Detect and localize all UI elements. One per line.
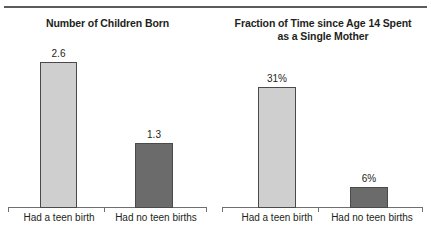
bar-value-had-a-teen-birth: 31% <box>256 73 298 84</box>
x-axis-tick-middle-left <box>104 208 105 212</box>
x-axis-tick-start-left <box>8 208 9 212</box>
bar-had-no-teen-births[interactable] <box>135 143 173 208</box>
bar-value-had-a-teen-birth: 2.6 <box>38 48 79 59</box>
x-tick-label-had-no-teen-births: Had no teen births <box>322 212 422 223</box>
bar-had-a-teen-birth[interactable] <box>258 87 296 208</box>
bar-value-had-no-teen-births: 1.3 <box>133 129 175 140</box>
x-axis-tick-end-left <box>206 208 207 212</box>
chart-panel-children-born: Number of Children Born 2.6 1.3 Had a te… <box>0 0 215 246</box>
plot-area-left: 2.6 1.3 Had a teen birth Had no teen bir… <box>0 0 215 246</box>
bar-had-a-teen-birth[interactable] <box>40 62 77 208</box>
bar-had-no-teen-births[interactable] <box>350 187 388 208</box>
figure-root: Number of Children Born 2.6 1.3 Had a te… <box>0 0 431 246</box>
x-axis-tick-start-right <box>222 208 223 212</box>
x-axis-line-right <box>222 207 423 208</box>
x-axis-tick-end-right <box>422 208 423 212</box>
x-tick-label-had-a-teen-birth: Had a teen birth <box>232 212 322 223</box>
x-tick-label-had-no-teen-births: Had no teen births <box>106 212 206 223</box>
chart-panel-single-mother-time: Fraction of Time since Age 14 Spent as a… <box>215 0 431 246</box>
x-axis-line-left <box>8 207 207 208</box>
plot-area-right: 31% 6% Had a teen birth Had no teen birt… <box>215 0 431 246</box>
bar-value-had-no-teen-births: 6% <box>348 173 390 184</box>
x-tick-label-had-a-teen-birth: Had a teen birth <box>14 212 104 223</box>
